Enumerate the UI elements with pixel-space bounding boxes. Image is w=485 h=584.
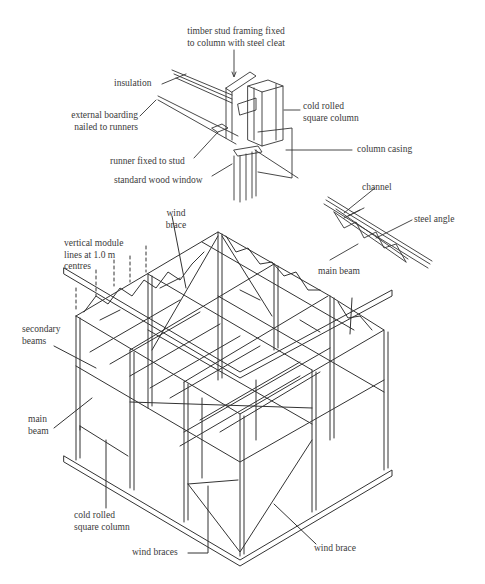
structure-drawing (0, 0, 485, 584)
label-main-beam-frame: main beam (28, 414, 49, 437)
label-line: timber stud framing fixed (176, 26, 296, 38)
label-line: secondary (22, 324, 61, 336)
label-line: beam (28, 426, 49, 438)
label-line: lines at 1.0 m (64, 250, 123, 262)
label-line: to column with steel cleat (176, 38, 296, 50)
label-line: beams (22, 336, 61, 348)
label-line: cold rolled (303, 101, 359, 113)
label-window: standard wood window (114, 175, 203, 187)
label-main-beam-detail: main beam (318, 266, 360, 278)
label-line: vertical module (64, 238, 123, 250)
beam-detail-drawing (324, 188, 432, 268)
label-line: wind (156, 208, 196, 220)
label-secondary-beams: secondary beams (22, 324, 61, 347)
label-external-boarding: external boarding nailed to runners (60, 110, 138, 133)
label-cold-rolled-column-frame: cold rolled square column (74, 510, 130, 533)
label-timber-stud: timber stud framing fixed to column with… (176, 26, 296, 49)
label-line: square column (74, 522, 130, 534)
label-module-lines: vertical module lines at 1.0 m centres (64, 238, 123, 273)
label-line: square column (303, 113, 359, 125)
label-line: cold rolled (74, 510, 130, 522)
diagram-canvas: timber stud framing fixed to column with… (0, 0, 485, 584)
label-line: centres (64, 261, 123, 273)
label-line: brace (156, 220, 196, 232)
label-column-casing: column casing (357, 144, 412, 156)
label-runner: runner fixed to stud (110, 156, 185, 168)
label-channel: channel (362, 182, 392, 194)
label-wind-brace-bottom: wind brace (314, 543, 356, 555)
label-steel-angle: steel angle (414, 214, 454, 226)
label-line: nailed to runners (60, 122, 138, 134)
label-wind-braces: wind braces (132, 547, 178, 559)
label-wind-brace-top: wind brace (156, 208, 196, 231)
label-line: main (28, 414, 49, 426)
label-insulation: insulation (114, 78, 151, 90)
label-line: external boarding (60, 110, 138, 122)
label-cold-rolled-column-detail: cold rolled square column (303, 101, 359, 124)
